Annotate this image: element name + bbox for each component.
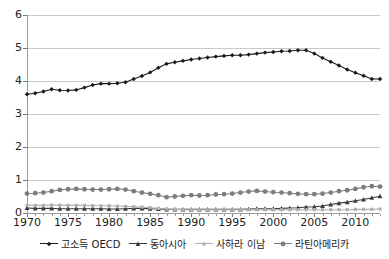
series-point	[222, 54, 226, 58]
legend-item-1[interactable]: 고소득 OECD	[40, 236, 120, 251]
series-point	[197, 56, 201, 60]
series-point	[279, 190, 284, 195]
series-point	[107, 187, 112, 192]
series-point	[82, 187, 87, 192]
series-point	[49, 189, 54, 194]
series-line	[27, 50, 380, 94]
series-point	[74, 88, 78, 92]
series-point	[345, 188, 350, 193]
series-point	[57, 188, 62, 193]
series-point	[230, 53, 234, 57]
series-point	[378, 207, 381, 210]
series-point	[197, 193, 202, 198]
series-point	[313, 208, 316, 211]
legend-item-3[interactable]: 사하라 이남	[195, 236, 264, 251]
series-point	[140, 74, 144, 78]
series-point	[156, 193, 161, 198]
series-point	[287, 49, 291, 53]
series-point	[148, 191, 153, 196]
series-point	[287, 191, 292, 196]
legend-item-4[interactable]: 라틴아메리카	[274, 236, 349, 251]
series-point	[90, 83, 94, 87]
series-point	[370, 77, 374, 81]
series-point	[288, 208, 291, 211]
series-point	[271, 190, 276, 195]
series-point	[337, 63, 341, 67]
series-point	[337, 189, 342, 194]
series-point	[362, 208, 365, 211]
legend-item-2[interactable]: 동아시아	[129, 236, 186, 251]
series-point	[99, 81, 103, 85]
series-point	[320, 56, 324, 60]
series-point	[58, 203, 61, 206]
series-point	[369, 184, 374, 189]
series-point	[280, 208, 283, 211]
series-point	[82, 85, 86, 89]
series-point	[58, 88, 62, 92]
series-point	[305, 208, 308, 211]
series-point	[41, 89, 45, 93]
series-point	[33, 91, 37, 95]
series-point	[312, 51, 316, 55]
legend-marker-icon	[40, 239, 58, 249]
series-point	[66, 204, 69, 207]
series-point	[123, 80, 127, 84]
series-point	[238, 53, 242, 57]
series-point	[329, 208, 332, 211]
series-point	[98, 187, 103, 192]
series-point	[346, 208, 349, 211]
series-point	[156, 66, 160, 70]
series-point	[222, 192, 227, 197]
series-point	[239, 208, 242, 211]
legend-marker-icon	[129, 239, 147, 249]
series-point	[205, 55, 209, 59]
series-point	[254, 188, 259, 193]
series-point	[361, 185, 366, 190]
data-series-layer	[0, 0, 389, 259]
series-point	[90, 187, 95, 192]
series-point	[149, 206, 152, 209]
series-point	[173, 208, 176, 211]
series-point	[370, 208, 373, 211]
data-series	[25, 48, 382, 96]
series-point	[50, 203, 53, 206]
series-point	[304, 48, 308, 52]
series-point	[353, 71, 357, 75]
series-point	[41, 190, 46, 195]
series-point	[74, 187, 79, 192]
series-point	[255, 208, 258, 211]
series-point	[91, 204, 94, 207]
series-point	[181, 193, 186, 198]
series-point	[181, 208, 184, 211]
series-point	[263, 208, 266, 211]
series-point	[329, 60, 333, 64]
series-point	[353, 187, 358, 192]
series-point	[247, 208, 250, 211]
series-point	[148, 70, 152, 74]
series-point	[328, 190, 333, 195]
series-point	[123, 187, 128, 192]
series-point	[132, 205, 135, 208]
series-point	[173, 60, 177, 64]
legend-marker-icon	[195, 239, 213, 249]
series-point	[213, 192, 218, 197]
series-point	[83, 204, 86, 207]
series-line	[27, 186, 380, 197]
legend-label: 고소득 OECD	[61, 236, 120, 251]
series-point	[345, 67, 349, 71]
series-point	[378, 77, 382, 81]
series-point	[33, 191, 38, 196]
series-point	[263, 189, 268, 194]
series-point	[205, 193, 210, 198]
series-point	[140, 190, 145, 195]
series-point	[246, 189, 251, 194]
legend-label: 동아시아	[150, 236, 186, 251]
series-point	[296, 191, 301, 196]
series-point	[198, 208, 201, 211]
series-point	[206, 208, 209, 211]
series-point	[115, 187, 120, 192]
series-point	[107, 81, 111, 85]
series-point	[116, 204, 119, 207]
series-line	[27, 196, 380, 209]
series-point	[49, 87, 53, 91]
